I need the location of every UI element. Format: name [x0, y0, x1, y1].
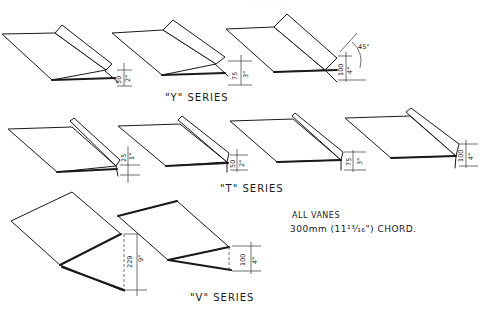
- vane-series-diagram: · · · · · · · · · · 50 2" 75 3" 45°: [0, 0, 489, 311]
- t1-dim-in: 1": [128, 153, 136, 160]
- note-line-2: 300mm (11¹³⁄₁₆") CHORD.: [290, 224, 417, 234]
- t3-dim-mm: 75: [345, 158, 353, 166]
- v2-dim-in: 4": [251, 257, 259, 264]
- y1-dim-mm: 50: [115, 76, 123, 84]
- y3-dim-in: 4": [346, 67, 354, 74]
- y1-dim-in: 2": [124, 75, 132, 82]
- y2-dim-in: 3": [242, 71, 250, 78]
- note-line-1: ALL VANES: [292, 211, 340, 220]
- t4-dim-mm: 100: [457, 150, 465, 162]
- t-series-vane-2: 50 2": [118, 116, 248, 172]
- v2-dim-mm: 100: [239, 254, 247, 266]
- v-series-vane-1: 229 9": [11, 192, 147, 296]
- t4-dim-in: 4": [467, 153, 475, 160]
- y3-angle: 45°: [358, 43, 370, 51]
- y3-dim-mm: 100: [337, 64, 345, 76]
- y-series-label: "Y" SERIES: [165, 92, 229, 103]
- t1-dim-mm: 25: [120, 154, 128, 162]
- t2-dim-mm: 50: [229, 160, 237, 168]
- v1-dim-mm: 229: [126, 256, 134, 268]
- header-faint-text: · · · · · · · · · ·: [248, 0, 284, 6]
- v-series-label: "V" SERIES: [190, 292, 254, 303]
- t-series-vane-3: 75 3": [230, 113, 366, 172]
- y2-dim-mm: 75: [231, 72, 239, 80]
- t3-dim-in: 3": [356, 158, 364, 165]
- v-series-vane-2: 100 4": [118, 201, 261, 274]
- v1-dim-in: 9": [137, 255, 145, 262]
- t-series-vane-4: 100 4": [345, 108, 478, 168]
- t-series-label: "T" SERIES: [220, 183, 284, 194]
- y-series-vane-1: 50 2": [2, 25, 132, 86]
- t2-dim-in: 2": [238, 160, 246, 167]
